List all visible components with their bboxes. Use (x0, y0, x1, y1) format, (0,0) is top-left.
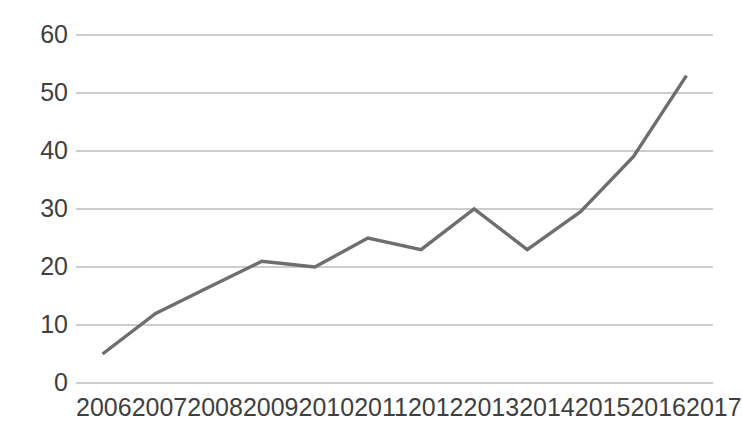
y-axis-tick-label: 40 (4, 138, 68, 163)
x-axis-tick-label: 2015 (575, 392, 631, 432)
x-axis-tick-label: 2016 (630, 392, 686, 432)
y-axis-tick-label: 20 (4, 254, 68, 279)
x-axis-tick-label: 2010 (299, 392, 355, 432)
x-axis-tick-labels: 2006200720082009201020112012201320142015… (76, 392, 714, 432)
x-axis-tick-label: 2011 (354, 392, 408, 432)
x-axis-tick-label: 2007 (132, 392, 188, 432)
x-axis-tick-label: 2014 (519, 392, 575, 432)
data-series-line (103, 76, 687, 354)
y-axis-tick-label: 0 (4, 370, 68, 395)
y-axis-tick-label: 10 (4, 312, 68, 337)
x-axis-tick-label: 2006 (76, 392, 132, 432)
x-axis-tick-label: 2013 (464, 392, 520, 432)
y-axis-tick-label: 30 (4, 196, 68, 221)
x-axis-tick-label: 2009 (243, 392, 299, 432)
x-axis-tick-label: 2017 (686, 392, 742, 432)
x-axis-tick-label: 2008 (187, 392, 243, 432)
y-axis-tick-labels: 6050403020100 (0, 0, 68, 440)
x-axis-tick-label: 2012 (408, 392, 464, 432)
y-axis-tick-label: 60 (4, 22, 68, 47)
y-axis-tick-label: 50 (4, 80, 68, 105)
gridlines (76, 35, 713, 383)
